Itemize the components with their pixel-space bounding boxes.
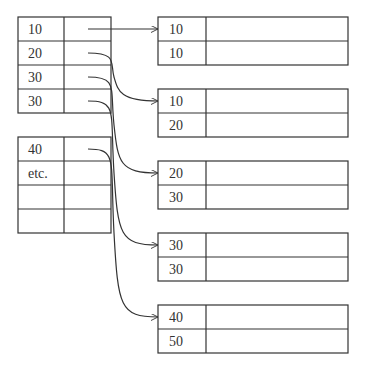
block-key-cell: 40 [169,310,183,325]
block-key-cell: 10 [169,94,183,109]
pointer-arrow [88,53,158,101]
block-key-cell: 20 [169,166,183,181]
block-key-cell: 50 [169,334,183,349]
index-key-cell: 20 [28,46,42,61]
index-table: 10203030 [18,17,111,113]
block-key-cell: 20 [169,118,183,133]
block-key-cell: 10 [169,22,183,37]
index-key-cell: etc. [28,166,48,181]
data-block: 2030 [158,161,348,209]
index-table: 40etc. [18,137,111,233]
block-key-cell: 10 [169,46,183,61]
data-block: 1010 [158,17,348,65]
block-key-cell: 30 [169,238,183,253]
index-tables: 1020303040etc. [18,17,111,233]
index-key-cell: 40 [28,142,42,157]
index-diagram: 1020303040etc. 10101020203030304050 [0,0,366,371]
pointer-arrows [88,29,158,317]
data-blocks: 10101020203030304050 [158,17,348,353]
data-block: 1020 [158,89,348,137]
index-key-cell: 30 [28,94,42,109]
index-key-cell: 30 [28,70,42,85]
index-key-cell: 10 [28,22,42,37]
data-block: 4050 [158,305,348,353]
pointer-arrow [88,77,158,173]
block-key-cell: 30 [169,262,183,277]
block-key-cell: 30 [169,190,183,205]
data-block: 3030 [158,233,348,281]
